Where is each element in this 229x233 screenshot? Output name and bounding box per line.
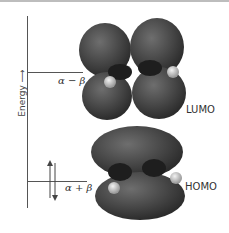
homo-label: HOMO: [185, 181, 217, 192]
homo-orbital: [91, 126, 185, 220]
electron-pair-arrows-icon: [47, 160, 58, 201]
lumo-orbital: [79, 18, 186, 120]
orbital-diagram: [0, 0, 229, 233]
lumo-label: LUMO: [186, 104, 215, 115]
